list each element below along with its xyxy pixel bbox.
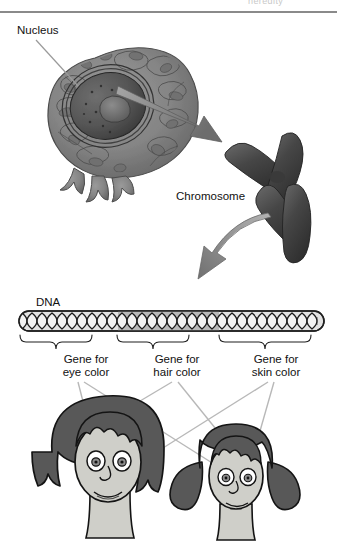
gene-brackets-group [20, 335, 311, 349]
label-dna: DNA [36, 296, 60, 309]
bracket-gene-hair [117, 335, 189, 349]
label-chromosome: Chromosome [176, 190, 245, 203]
pigtail-left [170, 462, 203, 510]
bracket-gene-skin [219, 335, 311, 349]
cartoon-girl-face [170, 424, 300, 540]
label-gene-skin-color: Gene for skin color [233, 353, 319, 379]
figure-artwork [0, 0, 337, 559]
label-gene-hair-color: Gene for hair color [134, 353, 220, 379]
label-gene-eye-color: Gene for eye color [43, 353, 129, 379]
dna-double-helix-strand [18, 310, 325, 332]
nucleolus-shape [100, 96, 131, 122]
bracket-gene-eye [20, 335, 92, 349]
cartoon-woman-face [32, 396, 164, 538]
label-nucleus: Nucleus [17, 24, 59, 37]
animal-cell-illustration [48, 48, 198, 202]
genetics-inheritance-figure: heredity [0, 0, 337, 559]
pigtail-right [268, 462, 301, 510]
arrow-chromosome-to-dna-icon [198, 213, 271, 279]
nucleus-leader-line [36, 40, 78, 86]
